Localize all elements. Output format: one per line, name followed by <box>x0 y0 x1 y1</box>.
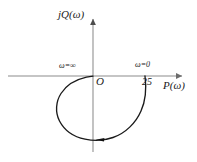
omega-zero-label: ω=0 <box>135 61 150 69</box>
real-axis-tick-25-label: 25 <box>142 77 152 87</box>
nyquist-plot-figure: jQ(ω) P(ω) O ω=∞ ω=0 25 <box>0 0 197 162</box>
x-axis-label: P(ω) <box>163 80 185 91</box>
omega-infinity-label: ω=∞ <box>59 62 76 70</box>
origin-label: O <box>96 76 104 87</box>
y-axis-label: jQ(ω) <box>58 9 84 20</box>
